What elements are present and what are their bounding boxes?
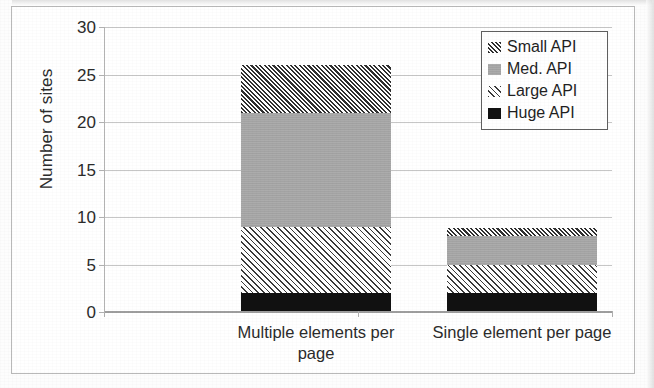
sparse-hatch-icon [488,86,501,97]
x-axis-label-line: Single element per page [396,322,648,343]
gray-fill-icon [488,64,501,75]
bar-segment-med-api [447,236,597,265]
dense-hatch-icon [488,42,501,53]
y-axis-tick [99,75,105,76]
bar-segment-small-api [241,65,391,113]
y-axis-title-container: Number of sites [14,27,48,312]
y-axis-tick-label: 0 [87,304,96,321]
bar-segment-med-api [241,113,391,227]
y-axis-tick [99,312,105,313]
legend-item-label: Small API [507,39,576,55]
gridline [104,27,612,28]
chart-figure: Number of sites 051015202530 Multiple el… [0,0,654,388]
bar-segment-huge-api [241,293,391,312]
legend-item-label: Med. API [507,61,572,77]
x-axis-tick [612,311,613,317]
chart-legend: Small APIMed. APILarge APIHuge API [481,31,608,130]
x-axis-tick [358,311,359,317]
y-axis-tick [99,217,105,218]
bar-segment-small-api [447,228,597,236]
x-axis-label-line: page [198,343,434,364]
y-axis-tick-label: 10 [77,209,96,226]
legend-item: Small API [488,36,601,58]
legend-item: Huge API [488,102,601,124]
y-axis-tick-label: 20 [77,114,96,131]
y-axis-tick-labels: 051015202530 [58,27,96,312]
legend-item-label: Huge API [507,105,575,121]
legend-item: Med. API [488,58,601,80]
stacked-bar [241,65,391,312]
x-axis-category-label: Single element per page [396,322,648,343]
y-axis-tick-label: 25 [77,67,96,84]
y-axis-tick [99,265,105,266]
y-axis-tick [99,122,105,123]
stacked-bar [447,228,597,312]
bar-segment-huge-api [447,293,597,312]
y-axis-tick [99,27,105,28]
y-axis-title: Number of sites [37,24,57,234]
bar-segment-large-api [241,227,391,294]
bar-segment-large-api [447,265,597,294]
black-fill-icon [488,108,501,119]
y-axis-tick-label: 15 [77,162,96,179]
legend-item-label: Large API [507,83,577,99]
legend-item: Large API [488,80,601,102]
y-axis-tick-label: 30 [77,19,96,36]
y-axis-tick [99,170,105,171]
y-axis-tick-label: 5 [87,257,96,274]
